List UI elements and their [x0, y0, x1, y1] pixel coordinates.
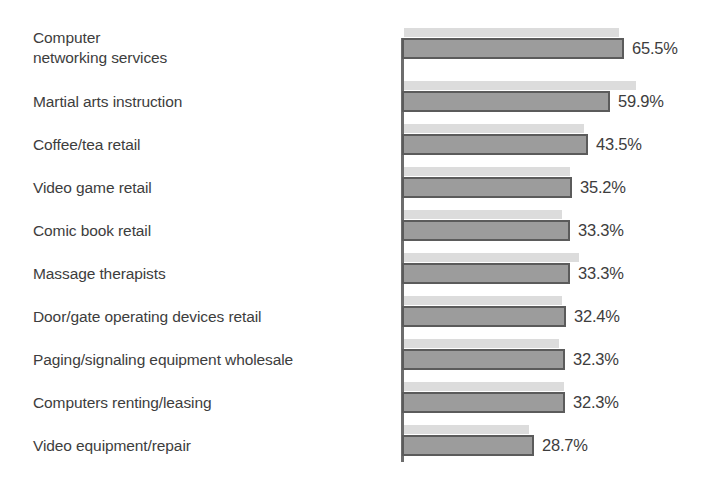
bar-value-label: 43.5%: [596, 134, 642, 155]
category-label: Comic book retail: [33, 221, 393, 240]
bar-row: Video equipment/repair28.7%: [0, 425, 702, 467]
bar-shadow: [404, 296, 562, 305]
bar-shadow: [404, 210, 562, 219]
bar-shadow: [404, 339, 559, 348]
bar-row: Massage therapists33.3%: [0, 253, 702, 295]
bar-shadow: [404, 81, 636, 90]
bar-value-label: 33.3%: [578, 220, 624, 241]
category-label: Martial arts instruction: [33, 92, 393, 111]
bar: [402, 134, 588, 155]
bar: [402, 220, 570, 241]
category-label: Video equipment/repair: [33, 436, 393, 455]
bar-value-label: 35.2%: [580, 177, 626, 198]
bar-shadow: [404, 28, 619, 37]
bar-row: Computers renting/leasing32.3%: [0, 382, 702, 424]
bar-value-label: 32.3%: [573, 392, 619, 413]
bar-value-label: 32.4%: [574, 306, 620, 327]
bar-row: Video game retail35.2%: [0, 167, 702, 209]
bar-row: Door/gate operating devices retail32.4%: [0, 296, 702, 338]
bar-value-label: 28.7%: [542, 435, 588, 456]
bar-row: Martial arts instruction59.9%: [0, 81, 702, 123]
bar-shadow: [404, 425, 529, 434]
bar-row: Coffee/tea retail43.5%: [0, 124, 702, 166]
bar: [402, 306, 566, 327]
bar: [402, 392, 565, 413]
bar: [402, 349, 565, 370]
bar-shadow: [404, 253, 579, 262]
bar-row: Computer networking services65.5%: [0, 28, 702, 70]
bar-shadow: [404, 124, 584, 133]
bar: [402, 177, 572, 198]
bar-value-label: 32.3%: [573, 349, 619, 370]
category-label: Coffee/tea retail: [33, 135, 393, 154]
bar-value-label: 33.3%: [578, 263, 624, 284]
bar-shadow: [404, 382, 564, 391]
category-label: Paging/signaling equipment wholesale: [33, 350, 393, 369]
bar: [402, 263, 570, 284]
category-label: Computer networking services: [33, 28, 393, 68]
bar: [402, 38, 624, 59]
bar-row: Comic book retail33.3%: [0, 210, 702, 252]
horizontal-bar-chart: Computer networking services65.5%Martial…: [0, 0, 702, 484]
bar-row: Paging/signaling equipment wholesale32.3…: [0, 339, 702, 381]
category-label: Computers renting/leasing: [33, 393, 393, 412]
category-label: Door/gate operating devices retail: [33, 307, 393, 326]
bar: [402, 91, 610, 112]
bar: [402, 435, 534, 456]
bar-value-label: 59.9%: [618, 91, 664, 112]
bar-shadow: [404, 167, 570, 176]
category-label: Video game retail: [33, 178, 393, 197]
bar-value-label: 65.5%: [632, 38, 678, 59]
category-label: Massage therapists: [33, 264, 393, 283]
